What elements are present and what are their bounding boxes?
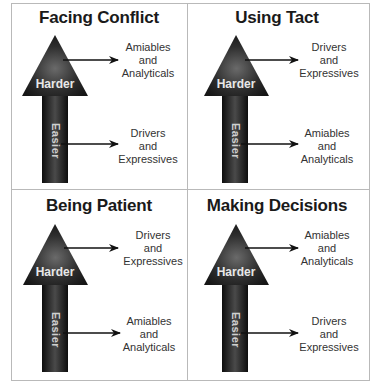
label-line: Amiables — [287, 229, 367, 242]
label-line: Expressives — [289, 341, 369, 354]
label-line: Analyticals — [287, 153, 367, 166]
label-line: Expressives — [289, 67, 369, 80]
harder-label: Harder — [201, 265, 271, 279]
easier-label: Easier — [50, 312, 62, 348]
label-line: Drivers — [289, 41, 369, 54]
label-line: Drivers — [108, 127, 188, 140]
label-line: Drivers — [289, 315, 369, 328]
harder-label: Harder — [20, 77, 90, 91]
label-line: Drivers — [113, 229, 193, 242]
label-line: Expressives — [113, 255, 193, 268]
label-line: and — [289, 328, 369, 341]
label-line: Amiables — [109, 315, 189, 328]
bottom-label: Drivers and Expressives — [108, 127, 188, 166]
top-label: Amiables and Analyticals — [108, 41, 188, 80]
panel-making-decisions: Making Decisions Harder Easier Amiables … — [189, 191, 365, 377]
label-line: and — [289, 54, 369, 67]
panel-using-tact: Using Tact Harder Easier Drivers and Exp… — [189, 3, 365, 189]
easier-label: Easier — [230, 123, 242, 159]
easier-label: Easier — [50, 123, 62, 159]
label-line: Amiables — [287, 127, 367, 140]
label-line: and — [109, 328, 189, 341]
panel-being-patient: Being Patient Harder Easier Drivers and … — [11, 191, 187, 377]
bottom-label: Amiables and Analyticals — [287, 127, 367, 166]
top-label: Amiables and Analyticals — [287, 229, 367, 268]
label-line: Expressives — [108, 153, 188, 166]
horizontal-divider — [11, 189, 370, 190]
top-label: Drivers and Expressives — [113, 229, 193, 268]
top-label: Drivers and Expressives — [289, 41, 369, 80]
harder-label: Harder — [201, 77, 271, 91]
label-line: and — [287, 242, 367, 255]
label-line: Analyticals — [287, 255, 367, 268]
easier-label: Easier — [230, 312, 242, 348]
panel-facing-conflict: Facing Conflict Harder Easier Amiables a… — [11, 3, 187, 189]
label-line: and — [287, 140, 367, 153]
label-line: and — [108, 140, 188, 153]
label-line: Amiables — [108, 41, 188, 54]
label-line: Analyticals — [108, 67, 188, 80]
label-line: and — [108, 54, 188, 67]
bottom-label: Amiables and Analyticals — [109, 315, 189, 354]
bottom-label: Drivers and Expressives — [289, 315, 369, 354]
label-line: Analyticals — [109, 341, 189, 354]
label-line: and — [113, 242, 193, 255]
harder-label: Harder — [20, 265, 90, 279]
